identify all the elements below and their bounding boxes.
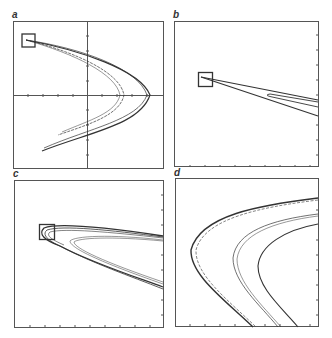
- panel-b: [175, 22, 319, 168]
- attractor-curves-b: [201, 77, 318, 116]
- attractor-curves-c: [42, 226, 163, 289]
- figure-canvas: [0, 0, 332, 338]
- panel-c: [15, 181, 164, 328]
- axis-ticks: [30, 195, 163, 327]
- panel-b-frame: [175, 22, 319, 167]
- panel-a: [13, 21, 164, 169]
- panel-c-frame: [15, 181, 164, 328]
- zoom-box: [199, 73, 213, 87]
- axis-ticks: [190, 210, 318, 326]
- axis-ticks: [190, 35, 318, 167]
- attractor-curves-d: [191, 198, 318, 327]
